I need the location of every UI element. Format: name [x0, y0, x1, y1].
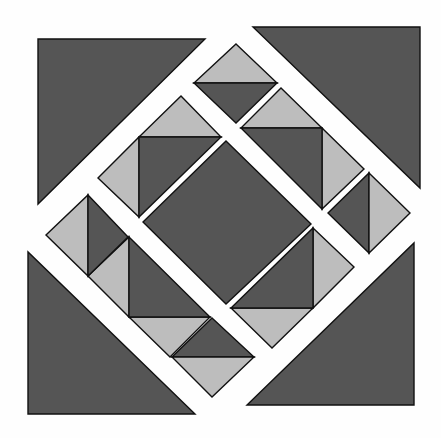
lower-right-unit-piece-2 — [231, 308, 313, 348]
quilt-block-diagram — [0, 0, 441, 438]
upper-left-unit-piece-2 — [98, 137, 139, 217]
upper-left-unit-piece-1 — [139, 96, 221, 137]
left-diamond-half-1 — [46, 195, 88, 276]
bottom-diamond-half-2 — [172, 357, 254, 397]
quilt-block-svg — [0, 0, 441, 438]
right-diamond-half-2 — [369, 173, 410, 253]
lower-right-unit-piece-1 — [313, 228, 354, 308]
top-diamond-half-1 — [194, 44, 277, 83]
